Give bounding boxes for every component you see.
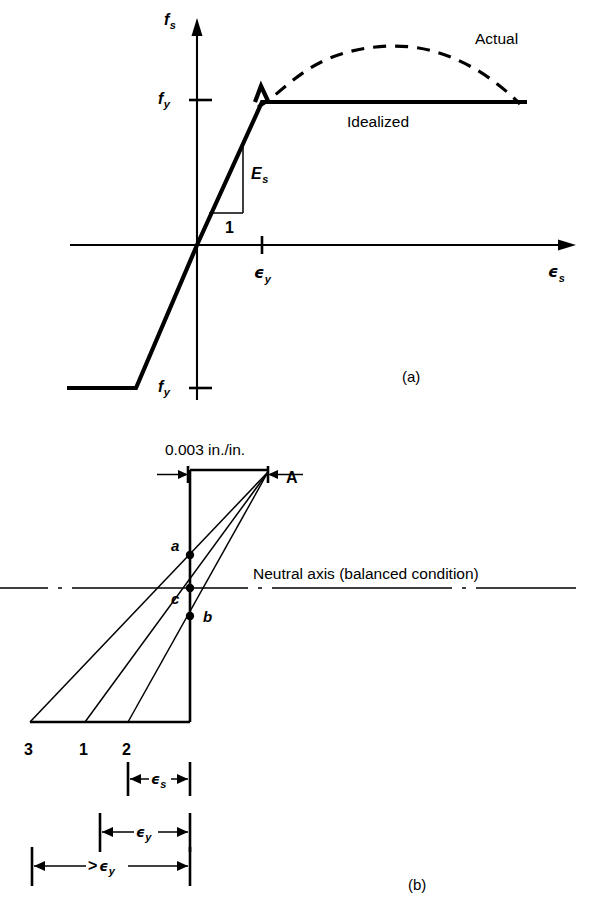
panel-b: 0.003 in./in. A Neutral axis (balanced c… xyxy=(0,441,576,893)
panel-a: fs fy fy ϵy ϵs Es 1 xyxy=(67,11,576,400)
panel-b-caption: (b) xyxy=(408,876,426,893)
point-c-dot xyxy=(186,584,194,592)
label-slope-run: 1 xyxy=(225,219,234,236)
label-top-strain: 0.003 in./in. xyxy=(165,441,245,458)
label-epsilon-y: ϵy xyxy=(254,263,272,285)
dim-eps-y-arrow-right xyxy=(177,827,188,837)
dim-gt-arrow-left xyxy=(34,861,45,871)
actual-curve xyxy=(258,46,520,107)
label-strain-line-2: 2 xyxy=(122,741,131,758)
strain-block-outline xyxy=(30,470,268,722)
dim-eps-y-arrow-left xyxy=(102,827,113,837)
label-point-A: A xyxy=(286,469,298,486)
panel-a-labels: fs fy fy ϵy ϵs Es 1 xyxy=(158,11,565,398)
top-dimension xyxy=(157,466,303,483)
y-axis-label: fs xyxy=(164,11,176,31)
yield-peak-bump xyxy=(255,86,268,102)
x-axis xyxy=(70,240,576,251)
figure-container: fs fy fy ϵy ϵs Es 1 xyxy=(0,0,590,921)
panel-a-caption: (a) xyxy=(402,368,420,385)
x-axis-label: ϵs xyxy=(548,262,565,284)
dim-arrow-left xyxy=(178,470,188,479)
label-point-c: c xyxy=(171,590,180,607)
label-fy-lower: fy xyxy=(158,378,171,398)
dimension-epsilon-y-greater: >ϵy xyxy=(32,847,190,886)
label-idealized-curve: Idealized xyxy=(347,113,409,130)
label-point-a: a xyxy=(171,537,179,554)
label-strain-line-1: 1 xyxy=(79,741,88,758)
stress-strain-figure: fs fy fy ϵy ϵs Es 1 xyxy=(0,0,590,921)
y-axis-arrowhead xyxy=(192,18,203,36)
label-strain-line-3: 3 xyxy=(24,741,33,758)
dim-eps-s-arrow-left xyxy=(130,774,141,784)
label-fy-upper: fy xyxy=(158,90,171,110)
label-modulus-es: Es xyxy=(251,165,268,185)
dim-arrow-right xyxy=(268,470,278,479)
dimension-epsilon-s: ϵs xyxy=(128,762,190,796)
dimension-epsilon-y: ϵy xyxy=(100,813,190,852)
label-neutral-axis: Neutral axis (balanced condition) xyxy=(253,565,479,582)
point-a-dot xyxy=(186,551,194,559)
label-point-b: b xyxy=(203,608,212,625)
x-axis-arrowhead xyxy=(558,240,576,251)
dim-eps-s-arrow-right xyxy=(177,774,188,784)
point-b-dot xyxy=(186,612,194,620)
y-axis xyxy=(192,18,203,400)
label-actual-curve: Actual xyxy=(475,30,518,47)
dim-gt-arrow-right xyxy=(177,861,188,871)
